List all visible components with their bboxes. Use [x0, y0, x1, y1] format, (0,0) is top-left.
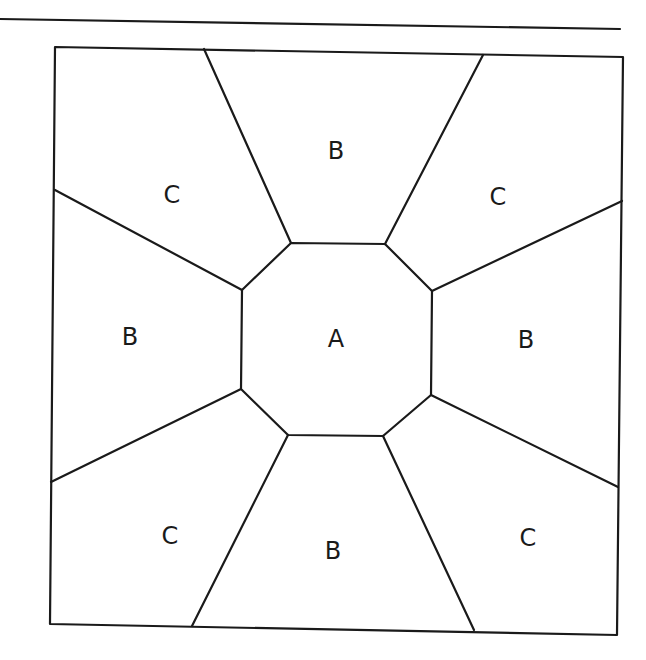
spoke-top-right: [385, 55, 483, 244]
label-bottom-right: C: [520, 524, 537, 552]
label-bottom-left: C: [162, 522, 179, 550]
label-top-right: C: [490, 183, 507, 211]
spoke-bottom-right: [383, 436, 474, 630]
label-bottom: B: [325, 537, 341, 565]
spoke-right-top: [432, 201, 622, 291]
label-top: B: [328, 137, 344, 165]
spoke-left-bottom: [51, 389, 241, 482]
spoke-bottom-left: [192, 435, 288, 626]
label-top-left: C: [164, 181, 181, 209]
label-right: B: [518, 326, 534, 354]
spoke-top-left: [204, 49, 291, 243]
spoke-right-bottom: [431, 395, 618, 487]
top-rule-line: [0, 19, 620, 29]
label-center: A: [328, 325, 345, 353]
spoke-left-top: [55, 190, 242, 290]
label-left: B: [122, 323, 138, 351]
quilt-block-diagram: A B B B B C C C C: [0, 0, 646, 660]
